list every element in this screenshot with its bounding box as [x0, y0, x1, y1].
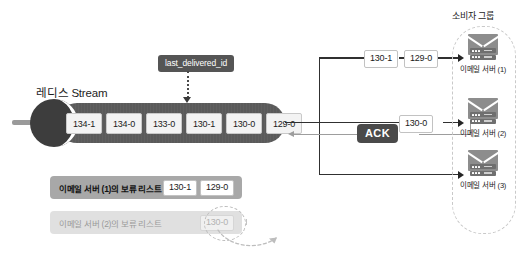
pending-list-server-1: 이메일 서버 (1)의 보류 리스트 130-1 129-0: [50, 176, 242, 199]
consumer-server-label: 이메일 서버 (2): [452, 127, 514, 138]
pending-list-entries: 130-1 129-0: [163, 180, 234, 196]
ack-badge: ACK: [357, 124, 398, 143]
pending-entry: 130-1: [163, 180, 197, 196]
consumer-group-label: 소비자 그룹: [452, 9, 493, 22]
stream-entry-list: 134-1 134-0 133-0 130-1 130-0 129-0: [66, 113, 302, 134]
consumer-server-label: 이메일 서버 (3): [452, 179, 514, 190]
stream-entry: 134-1: [66, 113, 102, 134]
server-rack-icon: [470, 48, 496, 60]
pending-entry: 129-0: [200, 180, 234, 196]
stream-entry: 130-0: [226, 113, 262, 134]
last-delivered-id-badge: last_delivered_id: [158, 55, 234, 72]
pending-list-title: 이메일 서버 (2)의 보류 리스트: [59, 217, 161, 229]
stream-title: 레디스 Stream: [36, 84, 107, 100]
stream-entry: 129-0: [266, 113, 302, 134]
last-delivered-id-connector: [187, 71, 189, 98]
consumer-server-2: 이메일 서버 (2): [452, 98, 514, 138]
pending-entry-removal-tick: [246, 219, 247, 225]
consumer-server-label: 이메일 서버 (1): [452, 63, 514, 74]
delivered-message-chip: 130-1: [364, 50, 398, 68]
redis-stream-consumer-group-diagram: 레디스 Stream 134-1 134-0 133-0 130-1 130-0…: [0, 0, 521, 259]
stream-output-wire: [285, 122, 320, 124]
delivered-message-chip: 129-0: [404, 50, 438, 68]
pending-list-title: 이메일 서버 (1)의 보류 리스트: [59, 182, 161, 194]
delivery-wire-server-2: [319, 122, 400, 124]
server-rack-icon: [470, 112, 496, 124]
delivery-wire-server-3: [319, 174, 460, 176]
delivered-message-chip: 130-0: [399, 115, 433, 133]
server-rack-icon: [470, 164, 496, 176]
ack-arrow-icon: [288, 131, 294, 137]
fanout-trunk-wire: [319, 57, 321, 175]
last-delivered-id-arrow-icon: [183, 97, 191, 103]
pending-entry-removal-arrow-icon: [216, 228, 286, 254]
consumer-server-1: 이메일 서버 (1): [452, 34, 514, 74]
consumer-server-3: 이메일 서버 (3): [452, 150, 514, 190]
stream-entry: 134-0: [106, 113, 142, 134]
stream-entry: 130-1: [186, 113, 222, 134]
stream-entry: 133-0: [146, 113, 182, 134]
